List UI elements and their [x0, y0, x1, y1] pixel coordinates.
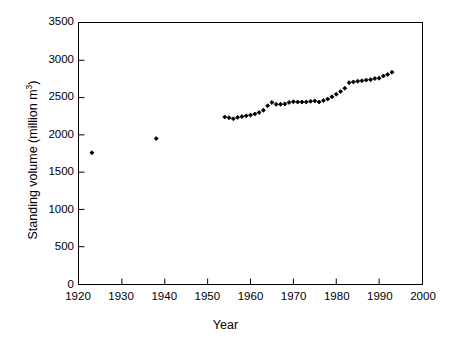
data-point-marker — [223, 115, 227, 119]
x-axis-tick-labels: 192019301940195019601970198019902000 — [0, 290, 451, 308]
data-point-marker — [373, 77, 377, 81]
data-point-marker — [231, 117, 235, 121]
data-point-marker — [347, 81, 351, 85]
data-point-marker — [283, 102, 287, 106]
data-point-marker — [261, 108, 265, 112]
data-point-marker — [386, 72, 390, 76]
data-point-marker — [390, 70, 394, 74]
data-point-marker — [313, 99, 317, 103]
y-axis-title-text: Standing volume (million m — [26, 89, 40, 239]
data-point-marker — [343, 86, 347, 90]
data-point-marker — [291, 100, 295, 104]
data-point-marker — [304, 100, 308, 104]
data-point-marker — [249, 113, 253, 117]
data-series — [90, 70, 394, 155]
data-point-marker — [369, 78, 373, 82]
y-axis-title: Standing volume (million m3) — [26, 30, 40, 290]
data-point-marker — [377, 76, 381, 80]
data-point-marker — [253, 112, 257, 116]
x-tick-label: 2000 — [393, 290, 451, 303]
y-axis-title-exponent: 3 — [24, 85, 34, 90]
data-point-marker — [326, 97, 330, 101]
y-tick-label: 3500 — [0, 16, 74, 28]
data-point-marker — [309, 99, 313, 103]
data-point-marker — [356, 79, 360, 83]
data-point-marker — [300, 100, 304, 104]
data-point-marker — [364, 78, 368, 82]
data-point-marker — [257, 111, 261, 115]
data-point-marker — [154, 137, 158, 141]
data-point-marker — [244, 114, 248, 118]
data-point-marker — [351, 80, 355, 84]
data-markers-layer — [79, 23, 422, 284]
data-point-marker — [90, 151, 94, 155]
data-point-marker — [274, 102, 278, 106]
x-axis-title: Year — [0, 318, 451, 332]
data-point-marker — [381, 74, 385, 78]
data-point-marker — [279, 102, 283, 106]
data-point-marker — [339, 90, 343, 94]
data-point-marker — [317, 100, 321, 104]
data-point-marker — [227, 116, 231, 120]
y-axis-title-suffix: ) — [26, 81, 40, 85]
data-point-marker — [270, 100, 274, 104]
data-point-marker — [287, 100, 291, 104]
data-point-marker — [360, 79, 364, 83]
chart-figure: 0500100015002000250030003500 Standing vo… — [0, 0, 451, 345]
data-point-marker — [236, 115, 240, 119]
plot-area — [78, 22, 423, 285]
data-point-marker — [321, 99, 325, 103]
data-point-marker — [240, 115, 244, 119]
data-point-marker — [334, 92, 338, 96]
data-point-marker — [266, 104, 270, 108]
data-point-marker — [330, 95, 334, 99]
data-point-marker — [296, 100, 300, 104]
